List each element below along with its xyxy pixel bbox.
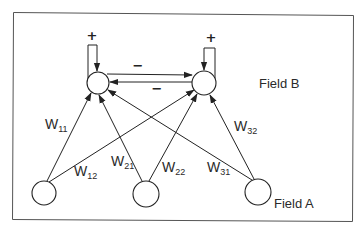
weight-base: W [74,163,88,179]
weight-subscript: 21 [124,161,134,171]
weight-base: W [207,159,221,175]
weight-subscript: 12 [87,171,97,181]
node-b1 [87,72,109,94]
node-a3 [245,179,271,205]
weight-base: W [234,118,248,134]
self-loop-b2-sign: + [206,30,217,45]
diagram-frame [13,13,354,222]
weight-subscript: 22 [175,167,185,177]
edge-b1-to-b2 [107,74,192,75]
weight-label-w31: W31 [207,159,230,177]
weight-label-w32: W32 [234,118,257,136]
node-a1 [32,181,56,205]
weight-label-w22: W22 [162,159,185,177]
node-b2 [192,71,216,95]
lateral-b2-b1-sign: − [152,81,163,96]
node-a2 [133,181,159,207]
weight-label-w21: W21 [111,153,134,171]
neural-field-diagram: + + − − Field B Field A W11 W12 W21 W22 … [0,0,361,234]
lateral-edges [107,74,192,82]
field-b-label: Field B [259,76,299,91]
weight-subscript: 32 [247,126,257,136]
weight-label-w12: W12 [74,163,97,181]
weight-base: W [111,153,125,169]
field-a-label: Field A [274,196,314,211]
weight-subscript: 11 [58,124,67,134]
lateral-b1-b2-sign: − [133,58,144,73]
weight-base: W [162,159,176,175]
weight-subscript: 31 [220,167,230,177]
self-loop-b1-sign: + [87,28,98,43]
weight-base: W [45,116,59,132]
weight-label-w11: W11 [45,116,68,134]
